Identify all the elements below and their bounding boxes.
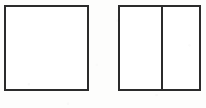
undivided-square xyxy=(4,5,89,91)
vertical-divider xyxy=(161,7,163,89)
figure-canvas xyxy=(0,0,206,108)
divided-square xyxy=(118,5,201,91)
